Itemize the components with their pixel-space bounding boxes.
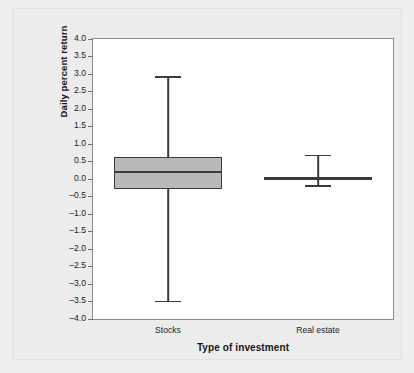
x-axis-title: Type of investment xyxy=(92,342,394,353)
y-axis-tick-label: 0.0 xyxy=(74,173,86,183)
y-axis-tick-label: 3.5 xyxy=(74,50,86,60)
y-axis-tick-label: 1.5 xyxy=(74,120,86,130)
y-axis-tick-label: –4.0 xyxy=(69,313,86,323)
y-axis-tick-label: 1.0 xyxy=(74,138,86,148)
y-axis-tick-label: –2.5 xyxy=(69,260,86,270)
boxplot-box xyxy=(93,39,393,319)
y-axis-tick-label: –0.5 xyxy=(69,190,86,200)
y-axis-tick-label: 2.5 xyxy=(74,85,86,95)
whisker-cap-upper xyxy=(305,155,331,157)
y-axis-tick-label: 3.0 xyxy=(74,68,86,78)
y-axis-tick-label: –1.5 xyxy=(69,225,86,235)
y-axis-title: Daily percent return xyxy=(58,0,69,157)
y-axis-tick-label: –3.0 xyxy=(69,278,86,288)
median-line xyxy=(264,178,372,180)
y-axis-tick-label: –3.5 xyxy=(69,295,86,305)
x-axis-category-label: Stocks xyxy=(155,325,181,335)
x-axis-category-label: Real estate xyxy=(296,325,339,335)
y-axis-tick-label: –1.0 xyxy=(69,208,86,218)
whisker-upper xyxy=(317,155,319,177)
chart-page: 4.03.53.02.52.01.51.00.50.0–0.5–1.0–1.5–… xyxy=(0,0,414,373)
figure-panel: 4.03.53.02.52.01.51.00.50.0–0.5–1.0–1.5–… xyxy=(12,8,402,360)
plot-area: 4.03.53.02.52.01.51.00.50.0–0.5–1.0–1.5–… xyxy=(92,38,394,320)
y-axis-tick-label: 2.0 xyxy=(74,103,86,113)
y-axis-tick-label: 0.5 xyxy=(74,155,86,165)
whisker-cap-lower xyxy=(305,185,331,187)
y-axis-tick-label: 4.0 xyxy=(74,33,86,43)
y-axis-tick-label: –2.0 xyxy=(69,243,86,253)
